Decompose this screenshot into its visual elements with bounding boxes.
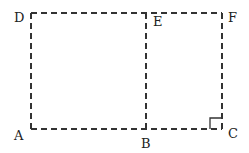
label-D: D [14,10,24,25]
label-C: C [228,126,238,141]
label-F: F [228,10,237,25]
label-B: B [141,136,151,151]
label-E: E [153,14,163,29]
right-angle-marker [210,118,222,129]
label-A: A [13,128,24,143]
rectangle-diagram: D E F A B C [0,0,249,153]
